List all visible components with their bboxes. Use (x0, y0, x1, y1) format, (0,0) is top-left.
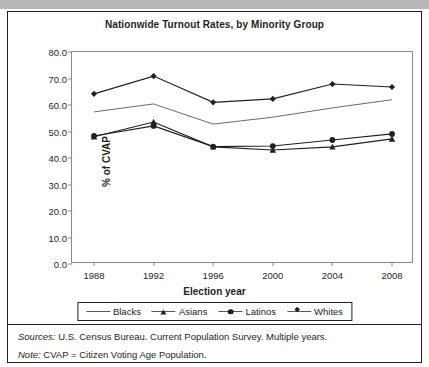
x-tick-label: 1992 (143, 270, 164, 281)
marker-triangle-icon (161, 309, 167, 314)
legend-label: Asians (179, 306, 208, 317)
legend-item-whites[interactable]: Whites (287, 306, 343, 317)
marker-diamond (270, 96, 276, 102)
note-line: Note: CVAP = Citizen Voting Age Populati… (18, 350, 411, 361)
chart-title: Nationwide Turnout Rates, by Minority Gr… (8, 19, 421, 30)
y-tick-label: 70.0 (49, 73, 68, 84)
series-latinos (91, 123, 395, 149)
legend-label: Whites (314, 306, 343, 317)
figure-notes: Sources: U.S. Census Bureau. Current Pop… (8, 324, 421, 364)
page-top-bar (0, 0, 429, 9)
marker-circle (91, 133, 97, 139)
x-tick-label: 2000 (262, 270, 283, 281)
plot-frame: % of CVAP 0.010.020.030.040.050.060.070.… (71, 51, 413, 263)
marker-diamond (389, 84, 395, 90)
marker-diamond (329, 81, 335, 87)
figure-container: Nationwide Turnout Rates, by Minority Gr… (7, 11, 422, 363)
series-whites (91, 73, 395, 105)
figure-screenshot: Nationwide Turnout Rates, by Minority Gr… (0, 0, 429, 367)
chart-legend: BlacksAsiansLatinosWhites (77, 302, 352, 321)
sources-line: Sources: U.S. Census Bureau. Current Pop… (18, 332, 411, 343)
y-tick-label: 10.0 (49, 232, 68, 243)
x-tick-label: 1988 (83, 270, 104, 281)
marker-circle (330, 137, 336, 143)
legend-label: Blacks (113, 306, 141, 317)
legend-swatch-latinos (218, 307, 242, 316)
marker-circle (270, 143, 276, 149)
legend-swatch-asians (152, 307, 176, 316)
marker-circle-icon (228, 309, 234, 315)
chart-series-layer (72, 52, 414, 264)
marker-diamond (91, 91, 97, 97)
series-line (94, 100, 392, 124)
series-line (94, 76, 392, 102)
y-tick-label: 60.0 (49, 100, 68, 111)
marker-diamond (210, 99, 216, 105)
legend-swatch-blacks (86, 307, 110, 316)
marker-circle (210, 144, 216, 150)
x-tick-label: 2004 (322, 270, 343, 281)
y-tick-label: 50.0 (49, 126, 68, 137)
x-axis-label: Election year (8, 286, 421, 297)
chart-area: Nationwide Turnout Rates, by Minority Gr… (8, 12, 421, 324)
x-tick-label: 2008 (381, 270, 402, 281)
y-tick-label: 40.0 (49, 153, 68, 164)
note-label: Note: (18, 349, 41, 360)
sources-label: Sources: (18, 331, 56, 342)
series-blacks (94, 100, 392, 124)
series-line (94, 126, 392, 147)
y-tick-label: 30.0 (49, 179, 68, 190)
sources-text: U.S. Census Bureau. Current Population S… (56, 331, 328, 342)
legend-swatch-whites (287, 307, 311, 316)
note-text: CVAP = Citizen Voting Age Population. (41, 349, 207, 360)
marker-diamond-icon (297, 309, 301, 313)
legend-item-latinos[interactable]: Latinos (218, 306, 276, 317)
marker-circle (389, 131, 395, 137)
series-asians (91, 119, 395, 153)
legend-item-blacks[interactable]: Blacks (86, 306, 141, 317)
legend-label: Latinos (245, 306, 276, 317)
y-tick-label: 80.0 (49, 47, 68, 58)
marker-diamond (151, 73, 157, 79)
y-tick-label: 20.0 (49, 206, 68, 217)
y-tick-label: 0.0 (54, 259, 67, 270)
legend-item-asians[interactable]: Asians (152, 306, 208, 317)
x-tick-label: 1996 (203, 270, 224, 281)
marker-circle (151, 123, 157, 129)
